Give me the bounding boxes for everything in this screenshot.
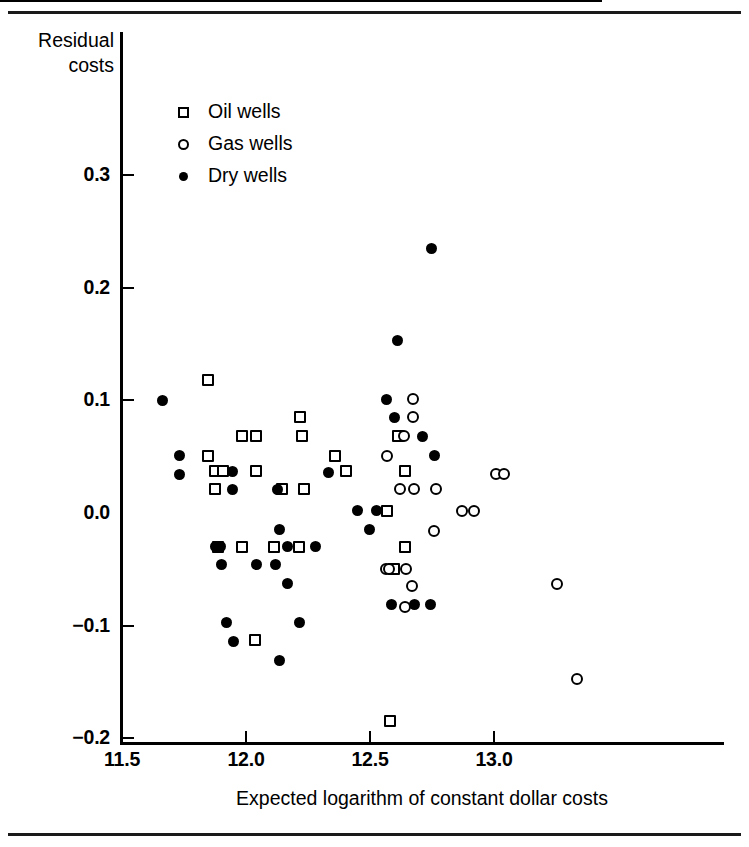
data-point-dry-wells bbox=[429, 450, 440, 461]
data-point-dry-wells bbox=[310, 541, 321, 552]
data-point-dry-wells bbox=[157, 395, 168, 406]
y-axis-tick-label: −0.1 bbox=[44, 614, 110, 638]
data-point-gas-wells bbox=[398, 430, 410, 442]
data-point-oil-wells bbox=[381, 505, 393, 517]
data-point-dry-wells bbox=[409, 599, 420, 610]
data-point-dry-wells bbox=[364, 524, 375, 535]
y-axis-tick-label: 0.2 bbox=[44, 276, 110, 300]
data-point-oil-wells bbox=[236, 541, 248, 553]
data-point-oil-wells bbox=[202, 450, 214, 462]
legend-item-label: Gas wells bbox=[208, 128, 293, 158]
data-point-oil-wells bbox=[250, 430, 262, 442]
circle-filled-icon-glyph bbox=[179, 172, 188, 181]
data-point-oil-wells bbox=[329, 450, 341, 462]
data-point-gas-wells bbox=[394, 483, 406, 495]
data-point-dry-wells bbox=[417, 431, 428, 442]
data-point-oil-wells bbox=[249, 634, 261, 646]
data-point-oil-wells bbox=[294, 411, 306, 423]
data-point-dry-wells bbox=[389, 412, 400, 423]
data-point-oil-wells bbox=[209, 483, 221, 495]
y-axis-tick-label-text: 0.3 bbox=[44, 163, 110, 186]
y-axis-tick-label-text: −0.2 bbox=[44, 726, 110, 749]
data-point-oil-wells bbox=[399, 465, 411, 477]
y-axis-tick-label: 0.3 bbox=[44, 163, 110, 187]
y-axis-tick bbox=[123, 287, 134, 289]
zero-reference-line bbox=[0, 0, 602, 2]
data-point-dry-wells bbox=[381, 394, 392, 405]
data-point-oil-wells bbox=[236, 430, 248, 442]
x-axis-tick bbox=[369, 731, 371, 742]
data-point-gas-wells bbox=[551, 578, 563, 590]
data-point-oil-wells bbox=[399, 541, 411, 553]
data-point-gas-wells bbox=[407, 393, 419, 405]
x-axis-tick bbox=[493, 731, 495, 742]
y-axis-tick-label-text: 0.1 bbox=[44, 388, 110, 411]
data-point-gas-wells bbox=[430, 483, 442, 495]
data-point-gas-wells bbox=[381, 450, 393, 462]
x-axis-line bbox=[120, 742, 724, 745]
data-point-dry-wells bbox=[221, 617, 232, 628]
data-point-dry-wells bbox=[216, 559, 227, 570]
data-point-dry-wells bbox=[323, 467, 334, 478]
data-point-gas-wells bbox=[406, 580, 418, 592]
x-axis-title: Expected logarithm of constant dollar co… bbox=[120, 787, 724, 810]
data-point-dry-wells bbox=[274, 655, 285, 666]
y-axis-tick-label: 0.0 bbox=[44, 501, 110, 525]
data-point-dry-wells bbox=[352, 505, 363, 516]
data-point-gas-wells bbox=[428, 525, 440, 537]
scatter-plot: Residual costs Expected logarithm of con… bbox=[0, 0, 749, 847]
y-axis-tick-label: 0.1 bbox=[44, 388, 110, 412]
data-point-dry-wells bbox=[426, 243, 437, 254]
data-point-dry-wells bbox=[294, 617, 305, 628]
square-outline-icon-glyph bbox=[178, 107, 189, 118]
data-point-gas-wells bbox=[571, 673, 583, 685]
data-point-oil-wells bbox=[340, 465, 352, 477]
data-point-dry-wells bbox=[251, 559, 262, 570]
y-axis-tick bbox=[123, 737, 134, 739]
x-axis-tick bbox=[245, 731, 247, 742]
data-point-gas-wells bbox=[383, 563, 395, 575]
y-axis-tick-label-text: −0.1 bbox=[44, 614, 110, 637]
data-point-oil-wells bbox=[296, 430, 308, 442]
data-point-gas-wells bbox=[400, 563, 412, 575]
x-axis-tick-label: 11.5 bbox=[82, 748, 162, 771]
data-point-oil-wells bbox=[384, 715, 396, 727]
data-point-oil-wells bbox=[268, 541, 280, 553]
data-point-dry-wells bbox=[282, 541, 293, 552]
data-point-dry-wells bbox=[272, 484, 283, 495]
y-axis-tick bbox=[123, 174, 134, 176]
data-point-dry-wells bbox=[386, 599, 397, 610]
data-point-dry-wells bbox=[425, 599, 436, 610]
data-point-gas-wells bbox=[456, 505, 468, 517]
data-point-dry-wells bbox=[270, 559, 281, 570]
data-point-dry-wells bbox=[227, 484, 238, 495]
y-axis-title: Residual costs bbox=[22, 28, 114, 78]
data-point-dry-wells bbox=[274, 524, 285, 535]
data-point-dry-wells bbox=[227, 466, 238, 477]
data-point-dry-wells bbox=[228, 636, 239, 647]
y-axis-tick-label: −0.2 bbox=[44, 726, 110, 750]
data-point-dry-wells bbox=[174, 469, 185, 480]
legend-item-label: Oil wells bbox=[208, 96, 281, 126]
y-axis-line bbox=[120, 32, 123, 745]
y-axis-tick bbox=[123, 399, 134, 401]
x-axis-tick-label: 12.0 bbox=[206, 748, 286, 771]
y-axis-tick-label-text: 0.2 bbox=[44, 276, 110, 299]
x-axis-tick-label: 12.5 bbox=[330, 748, 410, 771]
figure-container: Residual costs Expected logarithm of con… bbox=[0, 0, 749, 847]
data-point-dry-wells bbox=[392, 335, 403, 346]
circle-filled-icon bbox=[178, 169, 194, 185]
data-point-gas-wells bbox=[468, 505, 480, 517]
data-point-gas-wells bbox=[407, 411, 419, 423]
data-point-dry-wells bbox=[215, 541, 226, 552]
circle-outline-icon-glyph bbox=[178, 139, 189, 150]
y-axis-tick bbox=[123, 625, 134, 627]
data-point-oil-wells bbox=[293, 541, 305, 553]
y-axis-title-line1: Residual bbox=[38, 29, 114, 51]
data-point-oil-wells bbox=[202, 374, 214, 386]
data-point-gas-wells bbox=[408, 483, 420, 495]
circle-outline-icon bbox=[178, 137, 194, 153]
x-axis-tick-label: 13.0 bbox=[454, 748, 534, 771]
square-outline-icon bbox=[178, 105, 194, 121]
data-point-oil-wells bbox=[250, 465, 262, 477]
